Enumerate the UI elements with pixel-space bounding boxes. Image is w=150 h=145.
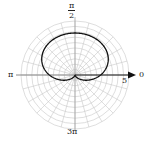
grid-spoke: [23, 61, 75, 75]
label-pi: π: [8, 71, 13, 79]
grid-spoke: [75, 75, 127, 89]
grid-spoke: [28, 48, 75, 75]
polar-grid: [21, 17, 129, 131]
grid-spoke: [75, 61, 127, 75]
polar-plot: [0, 0, 150, 145]
grid-spoke: [23, 75, 75, 89]
arrow-head-icon: [128, 72, 136, 79]
label-zero: 0: [139, 71, 144, 79]
grid-spoke: [75, 75, 122, 102]
grid-spoke: [61, 75, 75, 127]
label-pi-over-2: π 2: [68, 1, 75, 20]
label-radial-max: 5: [122, 77, 127, 85]
grid-spoke: [75, 23, 89, 75]
grid-spoke: [75, 48, 122, 75]
grid-spoke: [61, 23, 75, 75]
grid-spoke: [75, 75, 89, 127]
grid-spoke: [28, 75, 75, 102]
grid-spoke: [48, 75, 75, 122]
grid-spoke: [75, 75, 102, 122]
label-3pi-over-2: 3π: [66, 127, 78, 136]
